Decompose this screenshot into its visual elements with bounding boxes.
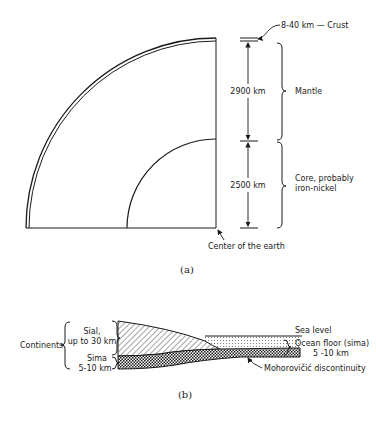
center-label: Center of the earth (208, 242, 285, 251)
sial-label-line1: Sial, (84, 327, 101, 336)
center-leader-arrow (218, 230, 224, 240)
continents-label: Continents (20, 341, 63, 350)
core-label-line1: Core, probably (295, 174, 354, 183)
moho-leader-arrow (248, 358, 262, 368)
moho-label: Mohorovičić discontinuity (264, 363, 366, 373)
crust-leader-arrow (258, 25, 280, 39)
earth-structure-diagram: 2900 km 2500 km 8-40 km — Crust Mantle C… (0, 0, 376, 427)
ocean-floor-label-line2: 5 -10 km (313, 349, 349, 358)
core-thickness: 2500 km (230, 181, 266, 190)
mantle-brace (277, 43, 286, 140)
sial-label-line2: up to 30 km (68, 337, 117, 346)
caption-b: (b) (178, 389, 192, 400)
core-arc (127, 139, 216, 228)
mantle-thickness: 2900 km (230, 87, 266, 96)
sima-label-line2: 5-10 km (78, 364, 111, 373)
sea-level-label: Sea level (295, 326, 331, 335)
sima-label-line1: Sima (87, 354, 107, 363)
core-label-line2: iron-nickel (295, 184, 336, 193)
figure-b: Sea level Ocean floor (sima) 5 -10 km Mo… (20, 321, 369, 400)
ocean-floor-label-line1: Ocean floor (sima) (295, 339, 369, 348)
ocean-water-layer (205, 336, 300, 349)
crust-inner-arc (29, 41, 216, 228)
caption-a: (a) (180, 264, 194, 275)
core-brace (277, 142, 286, 228)
figure-a: 2900 km 2500 km 8-40 km — Crust Mantle C… (26, 21, 354, 275)
mantle-label: Mantle (295, 87, 322, 96)
crust-label: 8-40 km — Crust (281, 21, 348, 30)
